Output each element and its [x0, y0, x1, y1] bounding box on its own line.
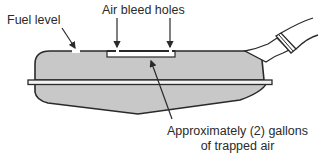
fuel-level-gap — [72, 49, 80, 53]
trapped-air-label-line1: Approximately (2) gallons — [150, 124, 325, 139]
trapped-air-label: Approximately (2) gallons of trapped air — [150, 124, 325, 154]
tank-flange — [28, 80, 272, 85]
fuel-level-arrow — [62, 28, 75, 48]
filler-neck — [245, 18, 318, 62]
trapped-air-label-line2: of trapped air — [150, 139, 325, 154]
air-bleed-hole-right — [169, 49, 172, 53]
air-bleed-holes-label: Air bleed holes — [102, 3, 185, 17]
fuel-level-label: Fuel level — [7, 13, 61, 27]
tank-lower-body — [35, 84, 266, 114]
air-bleed-hole-left — [116, 49, 119, 53]
